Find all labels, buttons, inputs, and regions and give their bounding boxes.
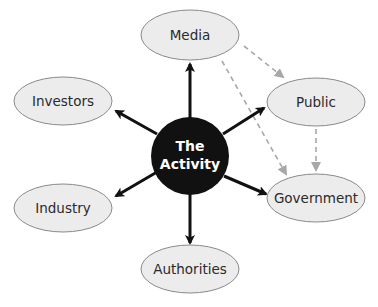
node-label-government: Government: [274, 190, 358, 206]
stakeholder-diagram: Media Investors Public Industry Governme…: [0, 0, 378, 307]
arrow-to-government: [224, 176, 266, 194]
node-media: Media: [141, 10, 239, 60]
node-investors: Investors: [14, 77, 112, 125]
node-label-authorities: Authorities: [153, 261, 227, 277]
node-label-media: Media: [170, 27, 211, 43]
node-industry: Industry: [14, 184, 112, 232]
arrow-to-investors: [116, 111, 157, 134]
dashed-arrow-media-to-government: [222, 61, 286, 174]
center-node-the-activity: The Activity: [151, 117, 229, 195]
arrow-to-industry: [116, 172, 157, 196]
node-government: Government: [267, 174, 365, 222]
node-authorities: Authorities: [141, 245, 239, 293]
center-label-line1: The: [175, 138, 204, 154]
dashed-arrow-media-to-public: [244, 46, 283, 77]
node-label-investors: Investors: [32, 93, 94, 109]
node-label-industry: Industry: [35, 200, 91, 216]
node-public: Public: [267, 78, 365, 126]
arrow-to-public: [223, 108, 264, 134]
node-label-public: Public: [296, 94, 336, 110]
center-label-line2: Activity: [160, 156, 220, 172]
